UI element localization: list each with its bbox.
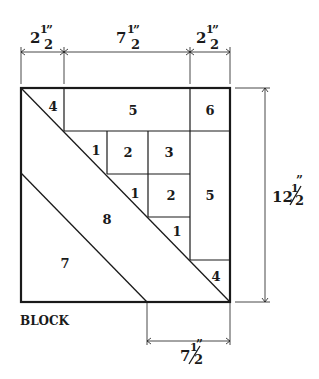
dim-top-middle: 7 1 2 ” (116, 23, 140, 52)
dim-bottom: 7 1 2 ” (180, 338, 203, 367)
svg-text:7: 7 (116, 29, 126, 47)
piece-1-a: 1 (91, 143, 100, 158)
piece-6: 6 (205, 103, 214, 118)
svg-text:12: 12 (272, 188, 293, 206)
piece-2-a: 2 (123, 145, 132, 160)
svg-text:”: ” (296, 174, 303, 188)
piece-5-top: 5 (128, 103, 137, 118)
dim-top-left: 2 1 2 ” (30, 23, 53, 52)
piece-5-right: 5 (205, 188, 214, 203)
svg-text:”: ” (212, 24, 219, 38)
piece-7: 7 (60, 256, 69, 271)
piece-4-top: 4 (48, 99, 57, 114)
svg-text:2: 2 (295, 193, 304, 208)
svg-text:”: ” (196, 338, 203, 352)
svg-text:2: 2 (194, 352, 203, 367)
quilt-block-diagram: 4 5 6 1 2 3 1 2 5 1 8 7 4 2 1 2 ” 7 1 2 … (0, 0, 319, 379)
piece-3: 3 (164, 145, 173, 160)
dim-top-right: 2 1 2 ” (196, 23, 219, 52)
svg-text:2: 2 (210, 37, 219, 52)
svg-text:”: ” (133, 24, 140, 38)
piece-1-c: 1 (172, 224, 181, 239)
piece-4-bottom: 4 (211, 269, 220, 284)
svg-text:2: 2 (131, 37, 140, 52)
block-title: BLOCK (20, 314, 70, 328)
svg-text:7: 7 (180, 347, 190, 365)
svg-text:”: ” (46, 24, 53, 38)
svg-text:2: 2 (30, 29, 40, 47)
piece-2-b: 2 (166, 188, 175, 203)
piece-8: 8 (102, 212, 111, 227)
svg-text:2: 2 (44, 37, 53, 52)
svg-text:2: 2 (196, 29, 206, 47)
piece-1-b: 1 (130, 186, 139, 201)
dim-right-side: 12 1 2 ” (272, 174, 304, 208)
